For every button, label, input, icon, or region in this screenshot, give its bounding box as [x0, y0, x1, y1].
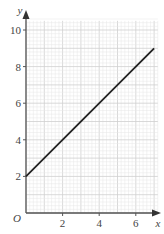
- x-axis-label: x: [155, 217, 161, 229]
- data-line: [26, 48, 154, 176]
- y-tick-label: 4: [16, 134, 22, 146]
- origin-label: O: [13, 212, 21, 224]
- x-tick-label: 6: [133, 217, 139, 229]
- y-axis-label: y: [17, 4, 23, 16]
- y-tick-label: 8: [16, 61, 22, 73]
- line-chart: 246810246Oxy: [0, 0, 164, 234]
- x-axis-arrow-icon: [152, 210, 161, 217]
- y-tick-label: 10: [10, 24, 22, 36]
- y-tick-label: 2: [16, 170, 22, 182]
- grid: [26, 19, 158, 213]
- y-axis-arrow-icon: [23, 10, 30, 19]
- data-series: [26, 48, 154, 176]
- x-tick-label: 4: [96, 217, 102, 229]
- x-tick-label: 2: [60, 217, 66, 229]
- y-tick-label: 6: [16, 97, 22, 109]
